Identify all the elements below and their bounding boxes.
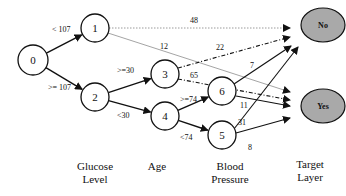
split-edge-2-4 <box>109 101 151 112</box>
node-label: 2 <box>92 91 98 103</box>
edge-weight-label: 8 <box>248 143 252 152</box>
node-0: 0 <box>18 45 48 75</box>
layer-label-glucose: GlucoseLevel <box>60 160 130 186</box>
split-condition-label: < 107 <box>52 25 71 34</box>
weight-edges <box>108 28 298 133</box>
target-yes: Yes <box>301 89 345 123</box>
node-label: 4 <box>162 110 168 122</box>
node-label: 5 <box>219 129 225 141</box>
split-condition-label: >=30 <box>117 66 134 75</box>
weight-edge-5-no <box>234 47 298 129</box>
weight-edge-3-no <box>178 37 290 68</box>
node-3: 3 <box>151 60 179 88</box>
edge-weight-label: 31 <box>238 118 246 127</box>
node-4: 4 <box>151 102 179 130</box>
layer-label-line1: Age <box>122 160 192 173</box>
node-2: 2 <box>81 83 109 111</box>
split-condition-label: >= 107 <box>48 83 71 92</box>
node-1: 1 <box>81 14 109 42</box>
layer-label-line2: Level <box>60 173 130 186</box>
target-layer: NoYes <box>301 8 345 123</box>
node-label: 1 <box>92 22 98 34</box>
split-condition-label: <74 <box>180 133 193 142</box>
layer-label-line2: Pressure <box>195 173 265 186</box>
edge-weight-label: 11 <box>240 101 248 110</box>
layer-label-age: Age <box>122 160 192 173</box>
node-label: 0 <box>30 54 36 66</box>
layer-label-line2: Layer <box>275 171 345 184</box>
split-condition-label: >=74 <box>180 95 197 104</box>
edge-weight-label: 7 <box>250 61 254 70</box>
edge-weight-label: 12 <box>160 42 168 51</box>
node-5: 5 <box>208 121 236 149</box>
layer-label-line1: Target <box>275 158 345 171</box>
layer-label-line1: Glucose <box>60 160 130 173</box>
target-label: Yes <box>317 102 329 111</box>
edge-weight-label: 22 <box>216 43 224 52</box>
layer-label-line1: Blood <box>195 160 265 173</box>
layer-label-bp: BloodPressure <box>195 160 265 186</box>
layer-label-target: TargetLayer <box>275 158 345 184</box>
edge-weight-label: 65 <box>190 71 198 80</box>
node-6: 6 <box>208 77 236 105</box>
split-condition-label: <30 <box>117 111 130 120</box>
target-label: No <box>318 21 328 30</box>
split-edge-2-3 <box>108 79 150 93</box>
split-edge-0-1 <box>46 35 81 53</box>
node-label: 3 <box>162 68 168 80</box>
edge-weight-label: 48 <box>190 16 198 25</box>
node-label: 6 <box>219 85 225 97</box>
target-no: No <box>301 8 345 42</box>
weight-edge-6-no <box>234 46 291 84</box>
split-edge-4-5 <box>178 120 207 130</box>
